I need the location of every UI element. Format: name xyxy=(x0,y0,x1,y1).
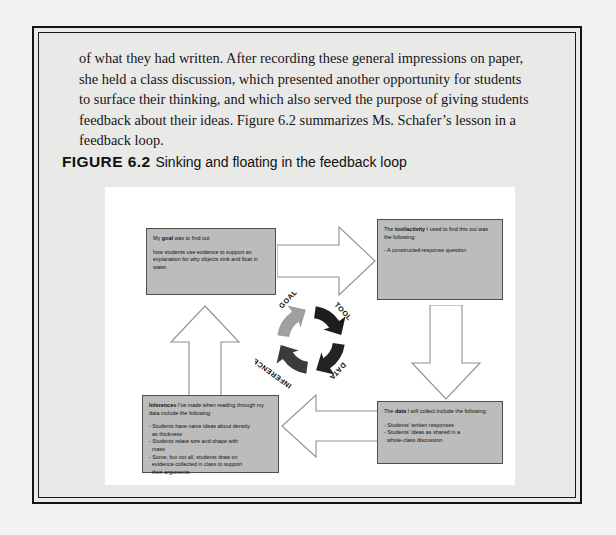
arrow-inference-to-goal xyxy=(169,304,241,400)
figure-caption: FIGURE 6.2Sinking and floating in the fe… xyxy=(62,153,407,171)
box-inference-body-line-3: - Students relate size and shape with xyxy=(149,438,238,444)
feedback-cycle-diagram: GOAL TOOL DATA INFERENCE xyxy=(255,290,367,393)
box-data-body-line-1: - Students’ written responses xyxy=(384,422,454,428)
figure-diagram-panel: GOAL TOOL DATA INFERENCE My goal was to … xyxy=(105,187,515,485)
figure-title: Sinking and floating in the feedback loo… xyxy=(155,154,406,170)
box-goal: My goal was to find out how students use… xyxy=(146,228,276,295)
box-goal-body: how students use evidence to support an … xyxy=(153,249,258,270)
body-paragraph-text: of what they had written. After recordin… xyxy=(79,48,529,151)
cycle-arrow-data-to-inference xyxy=(275,343,308,375)
box-data-body-line-2: - Students’ ideas as shared in a xyxy=(384,429,460,435)
box-data-heading-pre: The xyxy=(384,408,395,414)
arrow-tool-to-data xyxy=(410,305,482,401)
box-tool-body: - A constructed-response question xyxy=(384,247,466,253)
box-inference-body-line-6: evidence collected in class to support xyxy=(149,461,242,467)
box-inference-body-line-7: their arguments xyxy=(149,469,190,475)
arrow-data-to-inference xyxy=(280,393,380,459)
cycle-label-goal: GOAL xyxy=(277,290,299,310)
box-tool: The tool/activity I used to find this ou… xyxy=(377,219,503,300)
cycle-arrow-inference-to-goal xyxy=(275,304,307,337)
arrow-goal-to-tool xyxy=(277,225,377,297)
box-goal-heading-bold: goal xyxy=(162,235,173,241)
box-inference: Inferences I’ve made when reading throug… xyxy=(142,395,279,473)
figure-number: FIGURE 6.2 xyxy=(62,153,150,170)
box-inference-body-line-5: - Some, but not all, students draw on xyxy=(149,454,238,460)
box-goal-heading-pre: My xyxy=(153,235,162,241)
box-inference-body-line-4: mass xyxy=(149,446,165,452)
body-paragraph: of what they had written. After recordin… xyxy=(79,48,529,151)
box-inference-body-line-1: - Students have naive ideas about densit… xyxy=(149,423,250,429)
box-data-body-line-3: whole-class discussion xyxy=(384,437,442,443)
page-frame: of what they had written. After recordin… xyxy=(32,26,582,504)
box-data-heading-post: I will collect include the following: xyxy=(406,408,487,414)
box-data-heading-bold: data xyxy=(395,408,406,414)
box-inference-body-line-2: as thickness xyxy=(149,431,182,437)
box-goal-heading-post: was to find out xyxy=(173,235,210,241)
box-inference-heading-bold: Inferences xyxy=(149,402,176,408)
box-tool-heading-pre: The xyxy=(384,226,395,232)
box-tool-heading-bold: tool/activity xyxy=(395,226,425,232)
box-data: The data I will collect include the foll… xyxy=(377,401,503,464)
